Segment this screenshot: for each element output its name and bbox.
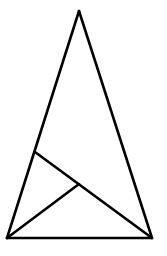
right-side-line: [79, 11, 152, 238]
cevian-line: [35, 152, 152, 238]
inner-segment-line: [7, 184, 79, 238]
triangle-diagram: [0, 0, 167, 256]
left-side-line: [7, 11, 79, 238]
